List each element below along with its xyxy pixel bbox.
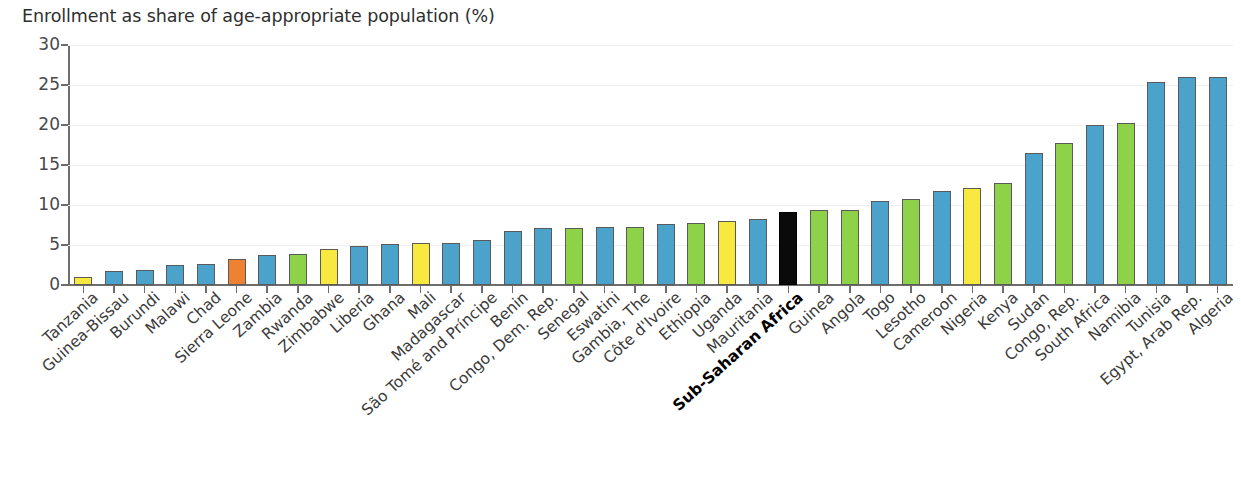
bar [963,188,981,285]
bar [166,265,184,285]
y-tick-label: 30 [38,36,60,53]
bar [718,221,736,285]
bar-series [68,45,1233,285]
y-tick [61,204,68,206]
bar [749,219,767,285]
y-tick-label: 25 [38,76,60,93]
bar-chart: Enrollment as share of age-appropriate p… [0,0,1241,484]
bar [350,246,368,285]
bar [1147,82,1165,285]
bar [779,212,797,285]
bar [412,243,430,285]
y-tick [61,124,68,126]
bar [596,227,614,285]
bar [136,270,154,285]
bar [381,244,399,285]
y-tick-label: 20 [38,116,60,133]
bar [74,277,92,285]
bar [228,259,246,285]
x-axis-category-labels: TanzaniaGuinea-BissauBurundiMalawiChadSi… [68,290,1241,480]
bar [197,264,215,285]
y-tick [61,84,68,86]
bar [810,210,828,285]
bar [289,254,307,285]
bar [504,231,522,285]
bar [320,249,338,285]
bar [473,240,491,285]
bar [994,183,1012,285]
chart-title: Enrollment as share of age-appropriate p… [22,6,495,26]
bar [626,227,644,285]
bar [105,271,123,285]
bar [565,228,583,285]
bar [902,199,920,285]
y-tick [61,164,68,166]
y-tick-label: 15 [38,156,60,173]
bar [1086,125,1104,285]
bar [657,224,675,285]
bar [933,191,951,285]
bar [1025,153,1043,285]
bar [687,223,705,285]
plot-area [68,45,1233,285]
bar [1209,77,1227,285]
bar [871,201,889,285]
y-tick [61,44,68,46]
y-tick-label: 0 [49,276,60,293]
y-tick [61,244,68,246]
y-tick-label: 5 [49,236,60,253]
bar [1178,77,1196,285]
bar [841,210,859,285]
bar [534,228,552,285]
bar [1117,123,1135,285]
bar [1055,143,1073,285]
bar [442,243,460,285]
y-tick [61,284,68,286]
y-axis-tick-labels: 051015202530 [0,45,60,285]
bar [258,255,276,285]
y-tick-label: 10 [38,196,60,213]
